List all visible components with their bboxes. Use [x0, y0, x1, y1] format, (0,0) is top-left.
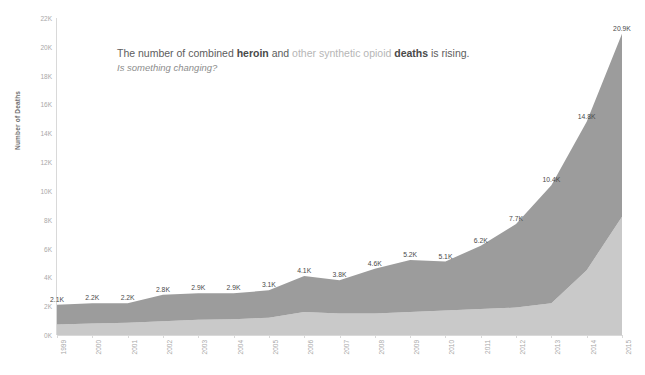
x-axis-tick-mark [198, 335, 199, 338]
x-axis-tick: 2006 [307, 340, 314, 354]
y-axis-tick: 22K [26, 15, 52, 22]
x-axis-tick: 1999 [60, 340, 67, 354]
data-point-label: 2.9K [227, 284, 241, 291]
y-axis-tick: 8K [26, 216, 52, 223]
data-point-label: 3.8K [333, 271, 347, 278]
data-point-label: 2.9K [191, 284, 205, 291]
x-axis-tick-mark [128, 335, 129, 338]
title-suffix: is rising. [428, 47, 469, 59]
data-point-label: 2.2K [85, 294, 99, 301]
x-axis-tick-mark [340, 335, 341, 338]
x-axis-tick-mark [551, 335, 552, 338]
y-axis-tick: 2K [26, 303, 52, 310]
data-point-label: 7.7K [509, 215, 523, 222]
y-axis-line [56, 18, 57, 335]
data-point-label: 2.1K [50, 296, 64, 303]
x-axis-tick-mark [269, 335, 270, 338]
title-other-synthetic-opioid: other synthetic opioid [292, 47, 391, 59]
opioid-deaths-area-chart: Number of Deaths 0K2K4K6K8K10K12K14K16K1… [0, 0, 645, 375]
x-axis-tick: 2014 [590, 340, 597, 354]
x-axis-tick: 2009 [413, 340, 420, 354]
x-axis-tick-mark [481, 335, 482, 338]
data-point-label: 2.2K [121, 294, 135, 301]
y-axis-tick: 10K [26, 187, 52, 194]
x-axis-tick-mark [587, 335, 588, 338]
x-axis-tick: 2010 [448, 340, 455, 354]
data-point-label: 4.6K [368, 260, 382, 267]
page-subtitle: Is something changing? [117, 61, 537, 75]
x-axis-tick-mark [304, 335, 305, 338]
data-point-label: 14.8K [578, 113, 596, 120]
y-axis-tick: 16K [26, 101, 52, 108]
x-axis-tick: 2000 [95, 340, 102, 354]
x-axis-tick-mark [234, 335, 235, 338]
page-title: The number of combined heroin and other … [117, 46, 537, 60]
y-axis-tick: 6K [26, 245, 52, 252]
title-heroin: heroin [237, 47, 269, 59]
data-point-label: 10.4K [542, 176, 560, 183]
data-point-label: 5.1K [438, 253, 452, 260]
data-point-label: 6.2K [474, 237, 488, 244]
title-mid: and [269, 47, 292, 59]
x-axis-tick-mark [516, 335, 517, 338]
x-axis-tick: 2007 [343, 340, 350, 354]
data-point-label: 20.9K [613, 25, 631, 32]
x-axis-tick-mark [57, 335, 58, 338]
x-axis-tick: 2003 [201, 340, 208, 354]
x-axis-tick: 2001 [131, 340, 138, 354]
y-axis-tick: 12K [26, 159, 52, 166]
x-axis-tick: 2011 [484, 340, 491, 354]
x-axis-tick-mark [163, 335, 164, 338]
x-axis-tick: 2002 [166, 340, 173, 354]
x-axis-tick: 2015 [625, 340, 632, 354]
x-axis-tick: 2013 [554, 340, 561, 354]
data-point-label: 4.1K [297, 267, 311, 274]
y-axis-tick: 14K [26, 130, 52, 137]
data-point-label: 3.1K [262, 281, 276, 288]
data-point-label: 5.2K [403, 251, 417, 258]
y-axis-title: Number of Deaths [14, 30, 21, 150]
y-axis-tick: 18K [26, 72, 52, 79]
x-axis-tick: 2008 [378, 340, 385, 354]
x-axis-tick-mark [375, 335, 376, 338]
x-axis-tick: 2005 [272, 340, 279, 354]
title-prefix: The number of combined [117, 47, 237, 59]
y-axis-tick: 20K [26, 43, 52, 50]
title-block: The number of combined heroin and other … [117, 46, 537, 75]
x-axis-tick-mark [445, 335, 446, 338]
area-band-other-synthetic-opioid [57, 34, 622, 325]
y-axis-tick: 0K [26, 332, 52, 339]
x-axis-tick: 2012 [519, 340, 526, 354]
title-deaths: deaths [391, 47, 428, 59]
x-axis-tick: 2004 [237, 340, 244, 354]
x-axis-tick-mark [92, 335, 93, 338]
x-axis-tick-mark [410, 335, 411, 338]
y-axis-tick: 4K [26, 274, 52, 281]
data-point-label: 2.8K [156, 286, 170, 293]
x-axis-tick-mark [622, 335, 623, 338]
